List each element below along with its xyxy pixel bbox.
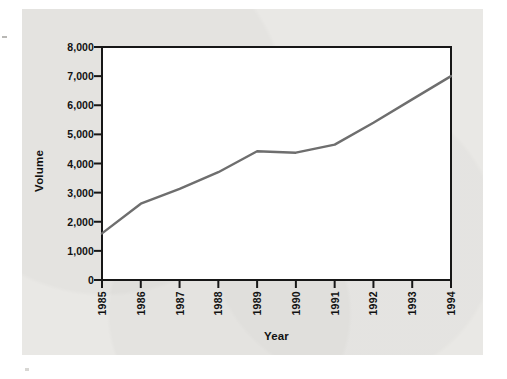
x-tick-label: 1993 xyxy=(406,291,418,316)
x-tick-label: 1985 xyxy=(96,291,108,316)
x-tick-label: 1992 xyxy=(367,291,379,316)
figure-container: 01,0002,0003,0004,0005,0006,0007,0008,00… xyxy=(0,0,507,379)
x-tick-label: 1991 xyxy=(329,291,341,316)
x-axis-title: Year xyxy=(101,330,452,342)
x-tick-label: 1986 xyxy=(135,291,147,316)
x-tick-label: 1987 xyxy=(174,291,186,316)
x-tick-label: 1989 xyxy=(251,291,263,316)
x-tick-label: 1988 xyxy=(212,291,224,316)
x-axis-tick-labels: 1985198619871988198919901991199219931994 xyxy=(0,0,507,379)
x-tick-label: 1990 xyxy=(290,291,302,316)
x-tick-label: 1994 xyxy=(445,291,457,316)
y-axis-title: Volume xyxy=(33,150,45,192)
